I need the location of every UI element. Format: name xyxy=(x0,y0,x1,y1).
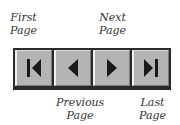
previous-page-button[interactable] xyxy=(54,50,91,86)
next-page-label-line1: Next xyxy=(99,11,126,24)
next-page-button[interactable] xyxy=(93,50,130,86)
first-page-label: First Page xyxy=(10,11,37,37)
first-page-label-line2: Page xyxy=(10,24,37,37)
next-page-label: Next Page xyxy=(99,11,126,37)
first-page-label-line1: First xyxy=(10,11,37,24)
skip-last-icon xyxy=(141,57,161,79)
previous-page-label: Previous Page xyxy=(56,96,104,122)
triangle-left-icon xyxy=(66,57,80,79)
previous-page-label-line1: Previous xyxy=(56,96,104,109)
last-page-label-line2: Page xyxy=(139,109,166,122)
last-page-button[interactable] xyxy=(132,50,169,86)
last-page-label: Last Page xyxy=(139,96,166,122)
last-page-label-line1: Last xyxy=(139,96,166,109)
next-page-label-line2: Page xyxy=(99,24,126,37)
page-navigation-toolbar xyxy=(13,48,171,90)
first-page-button[interactable] xyxy=(15,50,52,86)
skip-first-icon xyxy=(24,57,44,79)
previous-page-label-line2: Page xyxy=(56,109,104,122)
triangle-right-icon xyxy=(105,57,119,79)
